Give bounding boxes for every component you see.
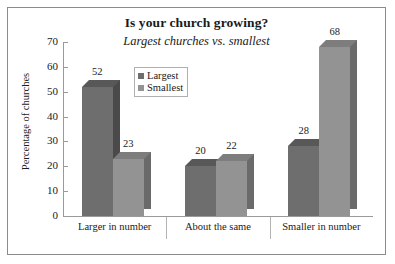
legend-label-smallest: Smallest	[147, 82, 183, 94]
legend-swatch-largest	[138, 73, 144, 79]
bar-largest	[288, 139, 319, 216]
chart-plot-area: Is your church growing? Largest churches…	[8, 8, 385, 254]
y-tick-mark	[64, 92, 68, 93]
bar-side-face	[144, 152, 151, 209]
y-tick-mark	[64, 191, 68, 192]
y-axis-label: Percentage of churches	[20, 42, 31, 202]
chart-legend: Largest Smallest	[134, 67, 188, 97]
x-category-label: About the same	[166, 221, 269, 232]
bar-value-label: 23	[109, 138, 148, 149]
legend-item: Smallest	[138, 82, 183, 94]
y-tick-mark	[64, 141, 68, 142]
category-separator	[166, 217, 167, 239]
bar-top-face	[319, 40, 357, 48]
y-tick-mark	[64, 42, 68, 43]
bar-value-label: 68	[315, 26, 354, 37]
bar-top-face	[216, 154, 254, 162]
bar-front-face	[82, 87, 113, 216]
bar-top-face	[113, 152, 151, 160]
bar-value-label: 22	[212, 140, 251, 151]
y-tick-mark	[64, 67, 68, 68]
bar-value-label: 28	[284, 125, 323, 136]
bar-side-face	[247, 154, 254, 209]
bar-front-face	[319, 47, 350, 216]
bar-smallest	[319, 40, 350, 216]
legend-item: Largest	[138, 70, 183, 82]
chart-frame: Is your church growing? Largest churches…	[7, 7, 386, 255]
x-axis-line	[63, 216, 373, 217]
bar-front-face	[216, 161, 247, 216]
y-tick-mark	[64, 117, 68, 118]
bar-top-face	[82, 80, 120, 88]
y-tick-label: 20	[32, 160, 58, 171]
category-separator	[270, 217, 271, 239]
y-tick-label: 10	[32, 185, 58, 196]
y-tick-label: 40	[32, 111, 58, 122]
y-tick-mark	[64, 216, 68, 217]
bar-front-face	[288, 146, 319, 216]
bar-value-label: 52	[78, 66, 117, 77]
y-tick-label: 60	[32, 61, 58, 72]
y-tick-label: 50	[32, 86, 58, 97]
bar-largest	[185, 159, 216, 216]
y-tick-label: 30	[32, 135, 58, 146]
bar-front-face	[113, 159, 144, 216]
legend-swatch-smallest	[138, 85, 144, 91]
bar-front-face	[185, 166, 216, 216]
legend-label-largest: Largest	[147, 70, 178, 82]
bar-smallest	[113, 152, 144, 216]
y-axis-line	[63, 42, 64, 216]
y-tick-mark	[64, 166, 68, 167]
x-category-label: Smaller in number	[270, 221, 373, 232]
x-category-label: Larger in number	[63, 221, 166, 232]
bar-smallest	[216, 154, 247, 216]
y-tick-label: 0	[32, 210, 58, 221]
bar-side-face	[350, 40, 357, 209]
y-tick-label: 70	[32, 36, 58, 47]
